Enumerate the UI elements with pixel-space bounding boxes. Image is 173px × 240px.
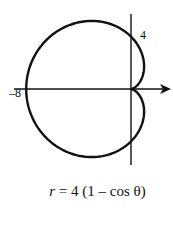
label-neg8: –8 — [8, 86, 21, 100]
equation-rhs: = 4 (1 – cos θ) — [59, 183, 146, 199]
equation-caption: r = 4 (1 – cos θ) — [0, 183, 173, 200]
equation-var: r — [49, 183, 55, 199]
label-4: 4 — [140, 28, 146, 42]
